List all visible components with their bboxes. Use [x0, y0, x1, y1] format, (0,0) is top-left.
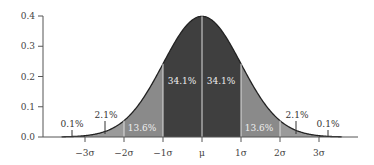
- y-tick-label: 0.4: [21, 11, 36, 21]
- label-0.1-right: 0.1%: [317, 119, 340, 129]
- x-tick-label: −1σ: [153, 148, 172, 158]
- x-tick-label: 1σ: [235, 148, 247, 158]
- x-tick-label: μ: [199, 148, 205, 158]
- label-34.1-right: 34.1%: [207, 76, 236, 86]
- y-tick-label: 0.3: [21, 41, 36, 51]
- label-34.1-left: 34.1%: [168, 76, 197, 86]
- label-13.6-left: 13.6%: [128, 123, 157, 133]
- label-0.1-left: 0.1%: [61, 119, 84, 129]
- y-tick-label: 0.1: [21, 102, 35, 112]
- x-tick-label: 2σ: [274, 148, 286, 158]
- label-2.1-left: 2.1%: [95, 110, 118, 120]
- x-tick-label: −2σ: [114, 148, 133, 158]
- y-ticks: 0.00.10.20.30.4: [21, 11, 43, 142]
- y-tick-label: 0.0: [21, 132, 36, 142]
- y-tick-label: 0.2: [21, 72, 35, 82]
- label-13.6-right: 13.6%: [245, 123, 274, 133]
- normal-distribution-chart: 0.00.10.20.30.4 −3σ−2σ−1σμ1σ2σ3σ 0.1% 2.…: [0, 0, 374, 165]
- x-ticks: −3σ−2σ−1σμ1σ2σ3σ: [75, 137, 325, 158]
- label-2.1-right: 2.1%: [286, 110, 309, 120]
- x-tick-label: −3σ: [75, 148, 94, 158]
- x-tick-label: 3σ: [313, 148, 325, 158]
